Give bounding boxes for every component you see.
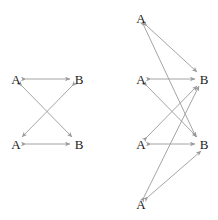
right-graph-edges xyxy=(0,0,218,220)
node-right-a1: A xyxy=(134,12,148,25)
right-graph-panel: A A B A B A xyxy=(0,0,218,220)
edge-right-a3-b2 xyxy=(147,86,197,137)
edge-right-a4-b3 xyxy=(148,151,201,197)
edge-right-a4-b2 xyxy=(144,86,199,197)
node-right-a2: A xyxy=(134,73,148,86)
diagram-screenshot: A B A B xyxy=(0,0,218,220)
edge-right-a1-b3 xyxy=(144,26,196,137)
node-right-a3: A xyxy=(134,138,148,151)
edge-right-a1-b2 xyxy=(147,26,197,72)
node-right-b2: B xyxy=(197,73,211,86)
node-right-b3: B xyxy=(197,138,211,151)
edge-right-a2-b3 xyxy=(147,86,197,137)
node-right-a4: A xyxy=(134,198,148,211)
